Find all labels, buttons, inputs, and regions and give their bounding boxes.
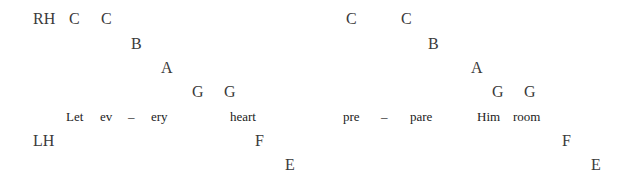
note-letter: F (255, 133, 264, 149)
note-letter: G (192, 84, 204, 100)
lyric-syllable: room (513, 110, 540, 123)
note-letter: C (101, 11, 112, 27)
note-letter: C (401, 11, 412, 27)
right-hand-label: RH (33, 11, 55, 27)
note-letter: A (161, 60, 173, 76)
lyric-syllable: ev (100, 110, 112, 123)
note-letter: G (524, 84, 536, 100)
note-letter: E (591, 157, 601, 173)
lyric-syllable: Him (477, 110, 500, 123)
note-letter: E (285, 157, 295, 173)
lyric-syllable: heart (230, 110, 256, 123)
left-hand-label: LH (33, 133, 54, 149)
note-letter: G (492, 84, 504, 100)
lyric-syllable: pre (343, 110, 360, 123)
lyric-syllable: – (128, 110, 135, 123)
note-letter: F (562, 133, 571, 149)
note-letter: C (346, 11, 357, 27)
lyric-syllable: ery (151, 110, 168, 123)
note-letter: B (428, 36, 439, 52)
note-letter: B (131, 36, 142, 52)
note-letter: G (224, 84, 236, 100)
note-letter: C (69, 11, 80, 27)
note-letter: A (471, 60, 483, 76)
lyric-syllable: Let (66, 110, 83, 123)
lyric-syllable: pare (410, 110, 432, 123)
lyric-syllable: – (381, 110, 388, 123)
